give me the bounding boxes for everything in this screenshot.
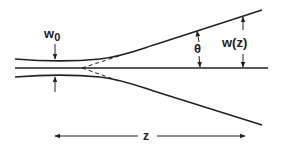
theta-arrow-down [199, 56, 200, 67]
lower-beam-envelope [15, 75, 262, 125]
theta-label: θ [194, 41, 201, 56]
lower-asymptote-dashed [82, 68, 122, 82]
waist-label: w0 [43, 26, 60, 43]
distance-label: z [143, 129, 149, 143]
upper-asymptote-dashed [82, 55, 122, 68]
width-label: w(z) [221, 35, 247, 50]
gaussian-beam-diagram: w0 θ w(z) z [0, 0, 287, 152]
